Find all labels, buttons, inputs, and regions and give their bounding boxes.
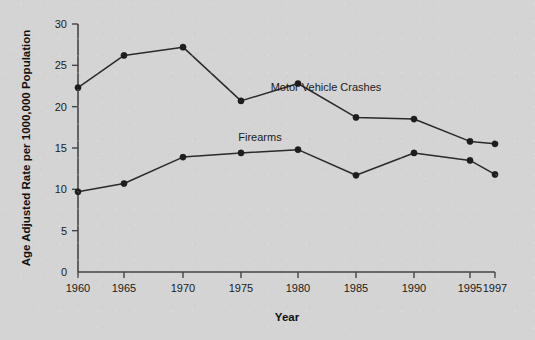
series-label: Firearms <box>238 131 282 143</box>
data-point <box>467 138 473 144</box>
line-chart: 051015202530 196019651970197519801985199… <box>0 0 535 340</box>
x-tick-label: 1965 <box>112 282 136 294</box>
data-point <box>353 172 359 178</box>
data-point <box>121 52 127 58</box>
data-point <box>411 150 417 156</box>
y-axis-title: Age Adjusted Rate per 1000,000 Populatio… <box>20 30 32 267</box>
data-point <box>75 85 81 91</box>
data-point <box>238 150 244 156</box>
data-point <box>121 180 127 186</box>
data-point <box>75 189 81 195</box>
chart-figure: 051015202530 196019651970197519801985199… <box>0 0 535 340</box>
y-tick-label: 5 <box>61 225 67 237</box>
x-tick-label: 1970 <box>171 282 195 294</box>
x-tick-label: 1975 <box>229 282 253 294</box>
x-axis-title: Year <box>275 311 300 323</box>
data-point <box>467 157 473 163</box>
x-tick-label: 1997 <box>483 282 507 294</box>
y-tick-label: 0 <box>61 266 67 278</box>
data-point <box>492 141 498 147</box>
data-point <box>295 147 301 153</box>
y-tick-label: 20 <box>55 101 67 113</box>
x-tick-label: 1985 <box>344 282 368 294</box>
data-point <box>411 116 417 122</box>
y-tick-label: 30 <box>55 18 67 30</box>
x-tick-label: 1990 <box>402 282 426 294</box>
x-tick-label: 1980 <box>286 282 310 294</box>
data-point <box>180 44 186 50</box>
data-point <box>238 98 244 104</box>
data-point <box>492 171 498 177</box>
x-tick-label: 1960 <box>66 282 90 294</box>
x-tick-label: 1995 <box>458 282 482 294</box>
data-point <box>180 154 186 160</box>
y-tick-label: 25 <box>55 59 67 71</box>
y-tick-label: 10 <box>55 183 67 195</box>
series-label: Motor Vehicle Crashes <box>271 81 382 93</box>
y-tick-label: 15 <box>55 142 67 154</box>
data-point <box>353 114 359 120</box>
